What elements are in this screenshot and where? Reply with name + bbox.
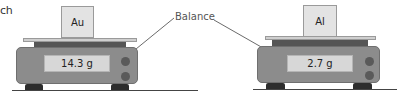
mass-reading: 14.3 g: [61, 58, 93, 69]
mass-reading: 2.7 g: [307, 58, 332, 69]
balance-callout-label: Balance: [175, 11, 215, 22]
ground-line: [253, 89, 397, 90]
sample-label: Au: [71, 17, 84, 28]
balance-display: 2.7 g: [287, 55, 353, 72]
balance-button-bottom: [365, 71, 374, 80]
sample-block-aluminum: Al: [303, 5, 337, 37]
sample-block-gold: Au: [61, 6, 94, 38]
balance-button-top: [121, 57, 130, 66]
balance-button-top: [365, 57, 374, 66]
ground-line: [12, 90, 198, 91]
balance-display: 14.3 g: [44, 55, 110, 72]
balance-button-bottom: [121, 72, 130, 81]
sample-label: Al: [315, 16, 325, 27]
